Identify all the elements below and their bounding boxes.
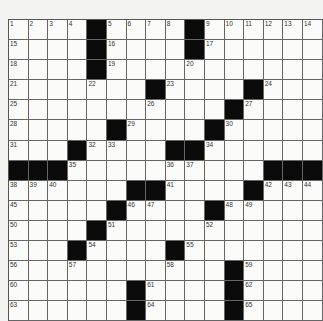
grid-cell[interactable] <box>48 100 68 120</box>
grid-cell[interactable] <box>68 120 88 140</box>
grid-cell[interactable]: 51 <box>107 221 127 241</box>
grid-cell[interactable]: 58 <box>166 261 186 281</box>
grid-cell[interactable]: 16 <box>107 40 127 60</box>
grid-cell[interactable]: 13 <box>283 20 303 40</box>
grid-cell[interactable] <box>29 120 49 140</box>
grid-cell[interactable] <box>166 201 186 221</box>
grid-cell[interactable] <box>303 281 323 301</box>
grid-cell[interactable]: 22 <box>87 80 107 100</box>
grid-cell[interactable]: 39 <box>29 181 49 201</box>
grid-cell[interactable] <box>185 221 205 241</box>
grid-cell[interactable] <box>303 241 323 261</box>
grid-cell[interactable] <box>48 301 68 321</box>
grid-cell[interactable] <box>107 261 127 281</box>
grid-cell[interactable] <box>29 201 49 221</box>
grid-cell[interactable] <box>166 100 186 120</box>
grid-cell[interactable]: 41 <box>166 181 186 201</box>
grid-cell[interactable] <box>48 241 68 261</box>
grid-cell[interactable] <box>68 181 88 201</box>
grid-cell[interactable]: 23 <box>166 80 186 100</box>
grid-cell[interactable] <box>185 301 205 321</box>
grid-cell[interactable] <box>283 80 303 100</box>
grid-cell[interactable] <box>107 241 127 261</box>
grid-cell[interactable] <box>264 100 284 120</box>
grid-cell[interactable] <box>244 161 264 181</box>
grid-cell[interactable] <box>303 141 323 161</box>
grid-cell[interactable]: 11 <box>244 20 264 40</box>
grid-cell[interactable]: 27 <box>244 100 264 120</box>
grid-cell[interactable] <box>68 40 88 60</box>
grid-cell[interactable]: 34 <box>205 141 225 161</box>
grid-cell[interactable] <box>107 181 127 201</box>
grid-cell[interactable] <box>127 161 147 181</box>
grid-cell[interactable] <box>146 120 166 140</box>
grid-cell[interactable]: 3 <box>48 20 68 40</box>
grid-cell[interactable]: 50 <box>9 221 29 241</box>
grid-cell[interactable] <box>283 201 303 221</box>
grid-cell[interactable]: 48 <box>225 201 245 221</box>
grid-cell[interactable] <box>166 281 186 301</box>
grid-cell[interactable] <box>205 281 225 301</box>
grid-cell[interactable]: 26 <box>146 100 166 120</box>
grid-cell[interactable]: 30 <box>225 120 245 140</box>
grid-cell[interactable] <box>29 261 49 281</box>
grid-cell[interactable] <box>29 141 49 161</box>
grid-cell[interactable] <box>127 221 147 241</box>
grid-cell[interactable] <box>225 221 245 241</box>
grid-cell[interactable] <box>68 281 88 301</box>
grid-cell[interactable] <box>264 201 284 221</box>
grid-cell[interactable] <box>303 120 323 140</box>
grid-cell[interactable] <box>283 301 303 321</box>
grid-cell[interactable] <box>303 60 323 80</box>
grid-cell[interactable] <box>29 241 49 261</box>
grid-cell[interactable] <box>283 221 303 241</box>
grid-cell[interactable]: 36 <box>166 161 186 181</box>
grid-cell[interactable] <box>225 80 245 100</box>
grid-cell[interactable]: 62 <box>244 281 264 301</box>
grid-cell[interactable] <box>264 221 284 241</box>
grid-cell[interactable]: 47 <box>146 201 166 221</box>
grid-cell[interactable] <box>205 301 225 321</box>
grid-cell[interactable] <box>87 301 107 321</box>
grid-cell[interactable] <box>205 80 225 100</box>
grid-cell[interactable] <box>283 241 303 261</box>
grid-cell[interactable] <box>48 141 68 161</box>
grid-cell[interactable] <box>87 161 107 181</box>
grid-cell[interactable] <box>107 301 127 321</box>
grid-cell[interactable]: 49 <box>244 201 264 221</box>
grid-cell[interactable] <box>107 100 127 120</box>
grid-cell[interactable] <box>68 221 88 241</box>
grid-cell[interactable] <box>225 40 245 60</box>
grid-cell[interactable] <box>29 100 49 120</box>
grid-cell[interactable] <box>283 281 303 301</box>
grid-cell[interactable]: 24 <box>264 80 284 100</box>
grid-cell[interactable] <box>264 60 284 80</box>
grid-cell[interactable] <box>166 60 186 80</box>
grid-cell[interactable] <box>107 281 127 301</box>
grid-cell[interactable] <box>185 100 205 120</box>
grid-cell[interactable] <box>205 181 225 201</box>
grid-cell[interactable]: 9 <box>205 20 225 40</box>
grid-cell[interactable]: 28 <box>9 120 29 140</box>
grid-cell[interactable] <box>283 261 303 281</box>
grid-cell[interactable]: 2 <box>29 20 49 40</box>
grid-cell[interactable] <box>303 100 323 120</box>
grid-cell[interactable] <box>225 60 245 80</box>
grid-cell[interactable]: 52 <box>205 221 225 241</box>
grid-cell[interactable] <box>87 120 107 140</box>
grid-cell[interactable] <box>244 120 264 140</box>
grid-cell[interactable]: 10 <box>225 20 245 40</box>
grid-cell[interactable]: 17 <box>205 40 225 60</box>
grid-cell[interactable]: 53 <box>9 241 29 261</box>
grid-cell[interactable]: 63 <box>9 301 29 321</box>
grid-cell[interactable]: 21 <box>9 80 29 100</box>
grid-cell[interactable] <box>264 281 284 301</box>
grid-cell[interactable] <box>264 120 284 140</box>
grid-cell[interactable] <box>68 201 88 221</box>
grid-cell[interactable] <box>166 40 186 60</box>
grid-cell[interactable] <box>107 161 127 181</box>
grid-cell[interactable] <box>205 161 225 181</box>
grid-cell[interactable] <box>127 261 147 281</box>
grid-cell[interactable] <box>48 60 68 80</box>
grid-cell[interactable] <box>68 80 88 100</box>
